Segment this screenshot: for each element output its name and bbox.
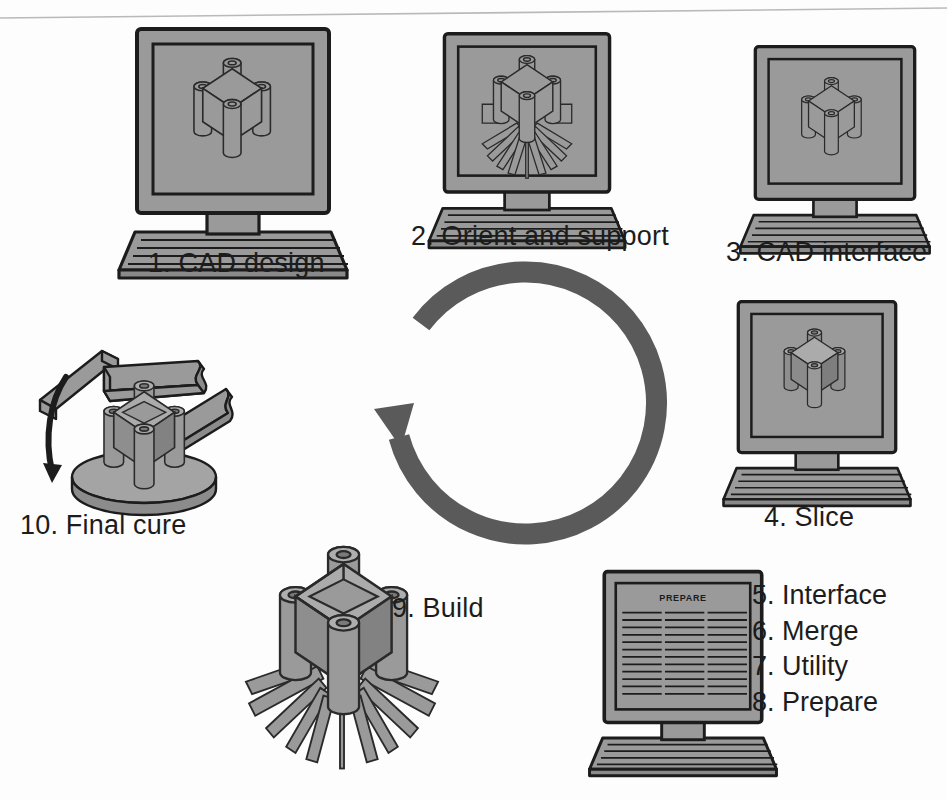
page-edge-scan-line — [0, 8, 947, 18]
software-step-merge: 6. Merge — [752, 614, 887, 650]
process-diagram: PREPARE — [0, 0, 947, 800]
step-label-slice: 4. Slice — [764, 501, 854, 534]
step-label-cad-design: 1. CAD design — [148, 247, 325, 280]
post-cure-icon — [40, 351, 233, 515]
monitor-icon-cad-design — [119, 29, 348, 278]
monitor-icon-orient-support — [429, 34, 626, 248]
software-step-utility: 7. Utility — [752, 649, 887, 685]
step-label-final-cure: 10. Final cure — [20, 509, 186, 542]
step-label-cad-interface: 3. CAD interface — [726, 236, 927, 269]
step-label-build: 9. Build — [392, 592, 484, 625]
step-label-orient-support: 2. Orient and support — [411, 220, 669, 253]
cycle-arrow — [374, 272, 657, 534]
prepare-screen-title: PREPARE — [659, 593, 706, 603]
built-part-icon — [246, 547, 438, 769]
software-step-prepare: 8. Prepare — [752, 685, 887, 721]
software-step-interface: 5. Interface — [752, 578, 887, 614]
software-step-list: 5. Interface 6. Merge 7. Utility 8. Prep… — [752, 578, 887, 721]
monitor-icon-prepare: PREPARE — [590, 572, 778, 776]
monitor-icon-slice — [724, 302, 912, 506]
monitor-icon-cad-interface — [740, 47, 930, 254]
